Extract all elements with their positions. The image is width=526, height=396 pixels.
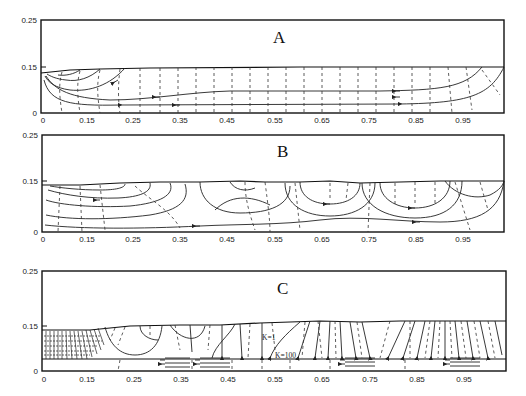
- y-tick-label: 0: [33, 109, 38, 118]
- x-tick-label: 0.15: [79, 375, 95, 384]
- panel-a-y-axis: 0.25 0.15 0: [21, 16, 46, 118]
- panel-c-letter: C: [277, 279, 288, 298]
- x-tick-label: 0: [41, 116, 46, 125]
- y-tick-label: 0.15: [22, 322, 38, 331]
- y-tick-label: 0: [34, 367, 39, 376]
- panel-a: A: [21, 16, 504, 125]
- x-tick-label: 0.95: [455, 116, 471, 125]
- x-tick-label: 0.75: [361, 235, 377, 244]
- figure: A: [0, 0, 526, 396]
- y-tick-label: 0.15: [21, 63, 37, 72]
- x-tick-label: 0.25: [125, 116, 141, 125]
- x-tick-label: 0: [41, 235, 46, 244]
- panel-c-streamlines: [105, 321, 502, 367]
- x-tick-label: 0.25: [125, 235, 141, 244]
- panel-a-water-table: [41, 67, 504, 73]
- x-tick-label: 0.45: [219, 235, 235, 244]
- x-tick-label: 0.35: [172, 116, 188, 125]
- panel-c: C: [22, 267, 506, 384]
- x-tick-label: 0.75: [361, 116, 377, 125]
- panel-b-y-axis: 0.25 0.15 0: [22, 131, 47, 237]
- panel-a-streamlines: [44, 67, 504, 105]
- x-tick-label: 0.85: [408, 235, 424, 244]
- x-tick-label: 0.55: [267, 375, 283, 384]
- x-tick-label: 0.55: [267, 116, 283, 125]
- x-tick-label: 0.25: [126, 375, 142, 384]
- x-tick-label: 0.85: [409, 375, 425, 384]
- panel-a-letter: A: [273, 28, 286, 47]
- x-tick-label: 0.45: [219, 116, 235, 125]
- y-tick-label: 0.25: [22, 131, 38, 140]
- x-tick-label: 0.15: [79, 235, 95, 244]
- x-tick-label: 0.15: [79, 116, 95, 125]
- x-tick-label: 0.35: [173, 375, 189, 384]
- y-tick-label: 0.25: [21, 16, 37, 25]
- panel-b: B: [22, 131, 504, 244]
- x-tick-label: 0.85: [408, 116, 424, 125]
- x-tick-label: 0.35: [172, 235, 188, 244]
- x-tick-label: 0.55: [267, 235, 283, 244]
- k100-label: K=100: [275, 351, 296, 360]
- x-tick-label: 0.65: [314, 116, 330, 125]
- y-tick-label: 0.25: [22, 267, 38, 276]
- panel-c-x-axis: 0 0.15 0.25 0.35 0.45 0.55 0.65 0.75 0.8…: [42, 375, 473, 384]
- x-tick-label: 0.75: [362, 375, 378, 384]
- panel-b-letter: B: [277, 142, 288, 161]
- panel-c-y-axis: 0.25 0.15 0: [22, 267, 47, 376]
- panel-a-equipotentials: [60, 67, 500, 113]
- panel-c-equipotentials: [110, 321, 495, 371]
- x-tick-label: 0.95: [455, 235, 471, 244]
- y-tick-label: 0: [34, 228, 39, 237]
- k1-label: K=1: [262, 333, 276, 342]
- panel-c-dense-grid: [44, 328, 104, 359]
- x-tick-label: 0.65: [314, 235, 330, 244]
- x-tick-label: 0.45: [220, 375, 236, 384]
- panel-b-x-axis: 0 0.15 0.25 0.35 0.45 0.55 0.65 0.75 0.8…: [41, 235, 472, 244]
- panel-c-water-table: [42, 321, 506, 330]
- y-tick-label: 0.15: [22, 177, 38, 186]
- x-tick-label: 0.95: [456, 375, 472, 384]
- x-tick-label: 0.65: [314, 375, 330, 384]
- panel-a-x-axis: 0 0.15 0.25 0.35 0.45 0.55 0.65 0.75 0.8…: [41, 116, 472, 125]
- x-tick-label: 0: [42, 375, 47, 384]
